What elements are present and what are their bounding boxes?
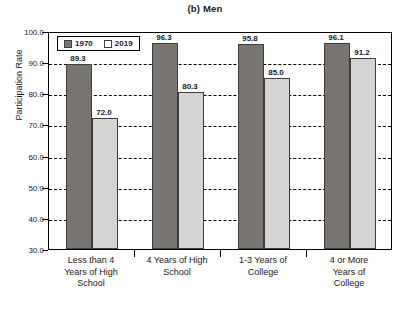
x-axis-label-line: Years of xyxy=(306,267,392,279)
legend-swatch-icon-2019 xyxy=(104,40,112,48)
x-axis-label-group-1: Less than 4Years of HighSchool xyxy=(48,255,134,290)
bar-1970-group-3 xyxy=(238,44,264,249)
legend-label-1970: 1970 xyxy=(75,39,93,48)
x-axis-label-group-3: 1-3 Years ofCollege xyxy=(220,255,306,278)
bar-2019-group-4 xyxy=(350,58,376,249)
y-tick-label: 60.0 xyxy=(4,152,44,161)
bar-value-label: 91.2 xyxy=(354,48,370,57)
plot-area xyxy=(48,32,392,250)
x-axis-label-line: Less than 4 xyxy=(48,255,134,267)
bar-2019-group-3 xyxy=(264,78,290,249)
bar-value-label: 89.3 xyxy=(70,54,86,63)
bar-2019-group-2 xyxy=(178,92,204,249)
y-axis-title: Participation Rate xyxy=(14,20,24,150)
x-axis-label-line: College xyxy=(306,278,392,290)
x-axis-label-line: School xyxy=(48,278,134,290)
y-tick-label: 50.0 xyxy=(4,183,44,192)
x-axis-label-group-2: 4 Years of HighSchool xyxy=(134,255,220,278)
legend-swatch-icon-1970 xyxy=(64,40,72,48)
bar-1970-group-1 xyxy=(66,64,92,249)
bar-value-label: 72.0 xyxy=(96,108,112,117)
bar-2019-group-1 xyxy=(92,118,118,249)
legend-label-2019: 2019 xyxy=(115,39,133,48)
legend-item-2019: 2019 xyxy=(104,39,133,48)
bar-1970-group-2 xyxy=(152,43,178,249)
bar-value-label: 80.3 xyxy=(182,82,198,91)
bar-value-label: 85.0 xyxy=(268,68,284,77)
y-tick-label: 100.0 xyxy=(4,28,44,37)
bar-1970-group-4 xyxy=(324,43,350,249)
bar-value-label: 95.8 xyxy=(242,34,258,43)
x-axis-label-line: School xyxy=(134,267,220,279)
x-axis-label-line: College xyxy=(220,267,306,279)
bar-value-label: 96.3 xyxy=(156,33,172,42)
legend-item-1970: 1970 xyxy=(64,39,93,48)
y-tick-label: 30.0 xyxy=(4,246,44,255)
x-axis-label-line: 4 or More xyxy=(306,255,392,267)
x-axis-label-group-4: 4 or MoreYears ofCollege xyxy=(306,255,392,290)
y-tick-mark xyxy=(42,250,48,251)
chart-legend: 1970 2019 xyxy=(57,36,140,51)
x-axis-label-line: 4 Years of High xyxy=(134,255,220,267)
y-tick-label: 90.0 xyxy=(4,59,44,68)
y-tick-label: 40.0 xyxy=(4,214,44,223)
y-tick-label: 70.0 xyxy=(4,121,44,130)
x-axis-label-line: 1-3 Years of xyxy=(220,255,306,267)
x-axis-label-line: Years of High xyxy=(48,267,134,279)
bar-value-label: 96.1 xyxy=(328,33,344,42)
chart-title: (b) Men xyxy=(0,3,410,14)
y-tick-label: 80.0 xyxy=(4,90,44,99)
